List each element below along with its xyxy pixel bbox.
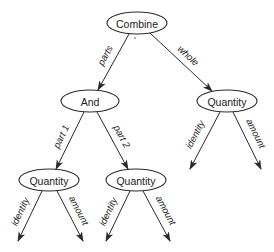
node-label: Quantity (116, 175, 156, 187)
edge-label: amount (154, 194, 179, 227)
node-combine: Combine (107, 12, 167, 34)
edge-label: amount (67, 194, 92, 228)
node-quantity-left: Quantity (19, 169, 79, 191)
edge-part-2: part 2 (97, 112, 133, 169)
edge-amount: amount (143, 191, 179, 241)
edge-part-1: part 1 (50, 112, 84, 169)
edge-amount: amount (57, 191, 91, 241)
node-quantity-right: Quantity (197, 90, 257, 112)
edges-layer: partswholepart 1part 2identityamountiden… (8, 33, 268, 241)
edge-label: identity (183, 117, 207, 150)
nodes-layer: CombineAndQuantityQuantityQuantity (19, 12, 257, 191)
edge-label: identity (96, 194, 119, 227)
arrow-icon (150, 33, 212, 91)
edge-label: amount (244, 117, 268, 151)
edge-identity: identity (8, 191, 42, 241)
node-label: Quantity (29, 175, 69, 187)
edge-label: whole (176, 43, 202, 68)
edge-label: part 1 (50, 123, 71, 151)
node-label: Combine (116, 18, 158, 30)
edge-identity: identity (96, 191, 130, 241)
edge-label: part 2 (111, 122, 133, 150)
edge-identity: identity (183, 112, 220, 169)
node-quantity-mid: Quantity (106, 169, 166, 191)
node-label: And (81, 96, 100, 108)
diagram-canvas: partswholepart 1part 2identityamountiden… (0, 0, 274, 252)
tree-diagram: partswholepart 1part 2identityamountiden… (0, 0, 274, 252)
edge-parts: parts (95, 34, 129, 90)
edge-whole: whole (150, 33, 212, 91)
node-label: Quantity (207, 96, 247, 108)
node-and: And (61, 90, 119, 112)
edge-amount: amount (233, 112, 268, 169)
edge-label: identity (8, 194, 31, 227)
stray-dot (134, 37, 135, 38)
